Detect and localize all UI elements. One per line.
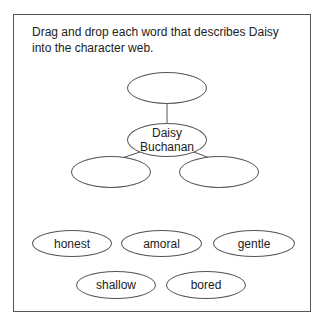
word-tile-shallow[interactable]: shallow xyxy=(76,271,156,299)
center-node-daisy-buchanan: Daisy Buchanan xyxy=(127,123,207,157)
word-tile-amoral[interactable]: amoral xyxy=(121,230,202,257)
center-node-line2: Buchanan xyxy=(140,140,194,154)
drop-slot-top[interactable] xyxy=(127,72,207,104)
connector-lines xyxy=(0,0,325,324)
word-label: bored xyxy=(191,278,222,292)
drop-slot-right[interactable] xyxy=(179,156,259,188)
word-label: amoral xyxy=(143,237,180,251)
word-tile-bored[interactable]: bored xyxy=(166,271,246,299)
drop-slot-left[interactable] xyxy=(71,156,151,188)
word-label: shallow xyxy=(96,278,136,292)
word-label: honest xyxy=(54,237,90,251)
center-node-line1: Daisy xyxy=(152,126,182,140)
word-label: gentle xyxy=(238,237,271,251)
word-tile-gentle[interactable]: gentle xyxy=(213,230,295,257)
word-tile-honest[interactable]: honest xyxy=(32,230,112,257)
